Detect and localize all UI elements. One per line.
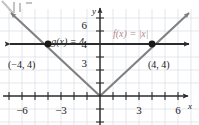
y-tick-label-6: 6 <box>82 20 88 31</box>
x-tick-label-6: 6 <box>175 105 181 116</box>
y-tick-label-3: 3 <box>82 58 88 69</box>
f-function-label: f(x) = |x| <box>113 29 149 39</box>
absolute-value-graph-figure: 6 4 3 −6 −3 3 6 x y g(x) = 4 f(x) = |x| … <box>0 0 199 125</box>
g-function-label: g(x) = 4 <box>51 37 84 47</box>
x-tick-label-neg6: −6 <box>16 105 28 116</box>
x-tick-label-3: 3 <box>136 105 142 116</box>
point-label-right: (4, 4) <box>148 60 170 70</box>
y-axis-name-label: y <box>92 7 96 16</box>
y-axis <box>96 8 104 125</box>
x-axis-name-label: x <box>188 102 192 111</box>
point-label-left: (−4, 4) <box>8 60 35 70</box>
x-tick-label-neg3: −3 <box>55 105 67 116</box>
